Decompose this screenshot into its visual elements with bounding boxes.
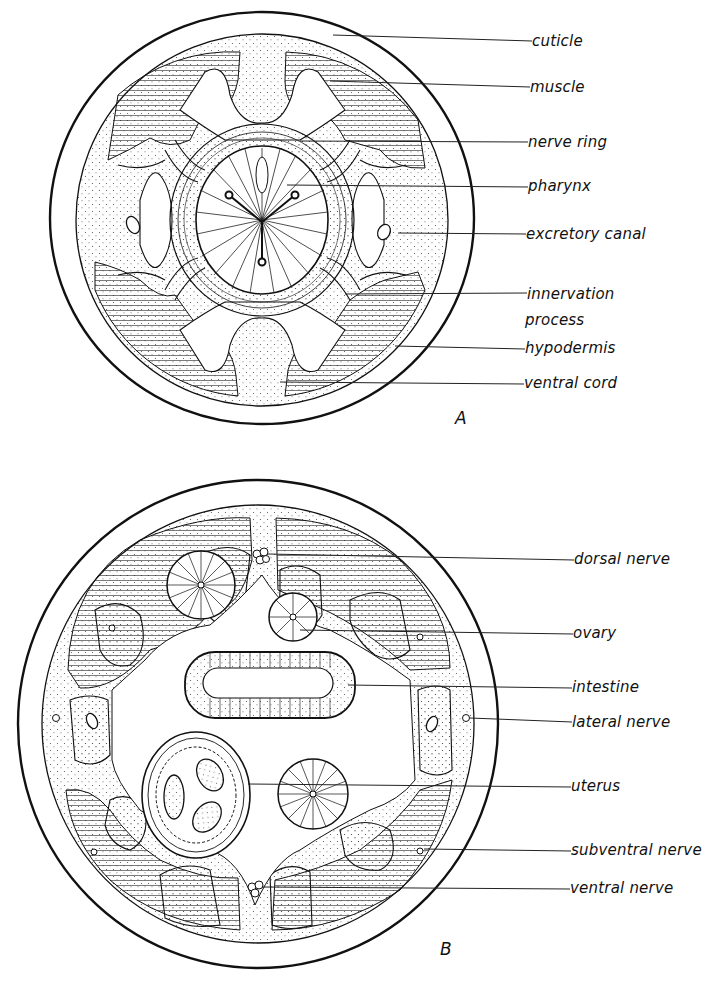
label-nerve-ring: nerve ring (528, 134, 607, 150)
panel-letter-a: A (455, 408, 467, 428)
label-ventral-nerve: ventral nerve (570, 880, 673, 896)
label-uterus: uterus (571, 778, 620, 794)
lateral-nerve-left (53, 715, 60, 722)
label-hypodermis: hypodermis (525, 340, 616, 356)
subventral-nerve-right (417, 848, 423, 854)
label-ovary: ovary (573, 625, 616, 641)
section-b (18, 480, 574, 968)
section-a (50, 12, 532, 424)
label-dorsal-nerve: dorsal nerve (574, 551, 670, 567)
label-subventral-nerve: subventral nerve (571, 842, 702, 858)
lateral-nerve-right (463, 715, 470, 722)
label-cuticle: cuticle (532, 33, 583, 49)
label-pharynx: pharynx (528, 178, 591, 194)
label-process: process (525, 312, 584, 328)
label-excretory-canal: excretory canal (526, 226, 646, 242)
egg-1 (164, 775, 184, 819)
label-muscle: muscle (530, 79, 585, 95)
label-innervation: innervation (527, 286, 615, 302)
uterus-b (142, 732, 250, 858)
label-intestine: intestine (572, 679, 639, 695)
intestine-b (185, 652, 355, 718)
label-ventral-cord: ventral cord (524, 375, 617, 391)
panel-letter-b: B (440, 939, 452, 959)
subventral-nerve-left (91, 849, 97, 855)
label-lateral-nerve: lateral nerve (572, 714, 670, 730)
